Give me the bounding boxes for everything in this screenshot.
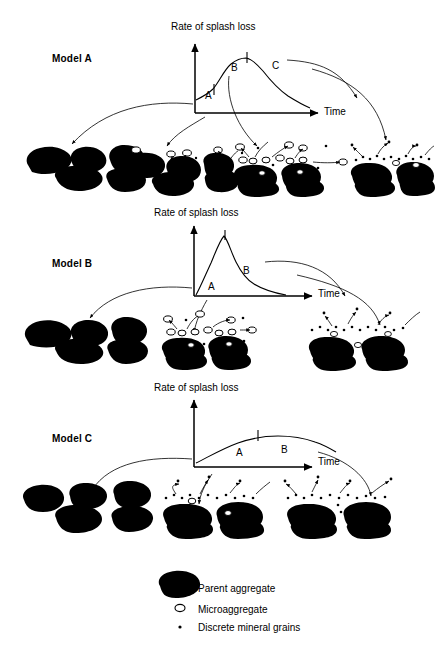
aggregate-cluster-c1 [23, 481, 153, 533]
diagram-vector-layer [0, 0, 435, 655]
legend-parent-aggregate-blob [159, 571, 200, 598]
model-c-curve [196, 430, 336, 463]
legend-symbols [159, 571, 200, 629]
model-b-curve [196, 230, 286, 295]
aggregate-cluster-b2 [162, 311, 256, 370]
aggregate-cluster-c2 [163, 476, 270, 539]
aggregate-cluster-a1 [27, 145, 146, 192]
aggregate-cluster-a4 [351, 141, 435, 197]
aggregate-cluster-a2 [127, 147, 243, 196]
aggregate-breakdown-figure: Model A Rate of splash loss Time A B C M… [0, 0, 435, 655]
aggregate-cluster-b3 [309, 308, 420, 371]
model-c-axes [194, 400, 312, 467]
legend-mineral-grain-dot [178, 625, 181, 628]
aggregate-cluster-c3 [284, 476, 393, 539]
model-a-connectors [72, 60, 386, 146]
legend-microaggregate-ellipse [175, 604, 185, 611]
aggregate-cluster-b1 [25, 317, 148, 364]
aggregate-cluster-a3 [234, 142, 347, 197]
